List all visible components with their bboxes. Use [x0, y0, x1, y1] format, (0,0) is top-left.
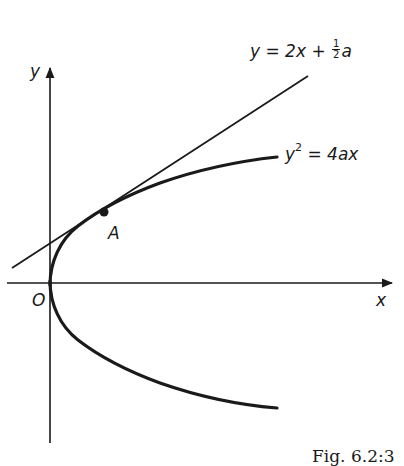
point-a-label: A [108, 225, 120, 242]
parabola-equation-label: y2 = 4ax [285, 144, 358, 163]
parabola-upper-branch [50, 157, 277, 285]
point-a-marker [100, 208, 109, 217]
fraction-denominator: 2 [332, 50, 340, 60]
parabola-lower-branch [50, 281, 277, 408]
parabola-tangent-figure [0, 0, 404, 466]
tangent-eq-main: y = 2x + [250, 41, 331, 61]
tangent-equation-label: y = 2x + 12a [250, 41, 352, 62]
x-axis-label: x [376, 292, 386, 309]
tangent-line [12, 76, 308, 268]
origin-label: O [32, 292, 45, 309]
parabola-eq-lhs: y [285, 144, 295, 164]
parabola-eq-rhs: = 4ax [302, 144, 358, 164]
tangent-eq-fraction: 12 [332, 39, 340, 60]
parabola-eq-exponent: 2 [295, 141, 302, 154]
tangent-eq-tail: a [341, 41, 351, 61]
figure-caption: Fig. 6.2:3 [312, 446, 395, 466]
y-axis-label: y [30, 63, 40, 80]
